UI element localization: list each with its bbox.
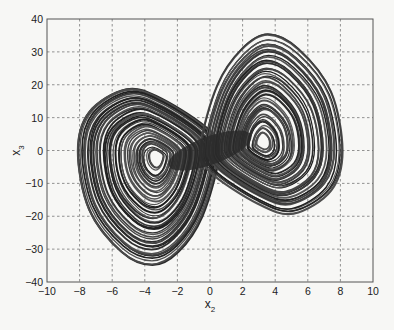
y-tick-label: 0 xyxy=(37,145,43,157)
y-tick-label: −40 xyxy=(25,276,43,288)
y-tick-label: −10 xyxy=(25,177,43,189)
x-tick-label: 6 xyxy=(305,285,311,297)
x-tick-label: −2 xyxy=(171,285,183,297)
y-tick-label: −20 xyxy=(25,210,43,222)
y-tick-label: −30 xyxy=(25,243,43,255)
x-axis-label-subscript: 2 xyxy=(211,305,216,314)
attractor-chart: −10−8−6−4−20246810 −40−30−20−10010203040… xyxy=(0,0,394,330)
y-axis-label-subscript: 3 xyxy=(17,145,26,150)
x-tick-label: 0 xyxy=(207,285,213,297)
y-axis-ticks: −40−30−20−10010203040 xyxy=(25,13,43,288)
x-axis-ticks: −10−8−6−4−20246810 xyxy=(38,285,379,297)
y-tick-label: 20 xyxy=(31,79,43,91)
y-tick-label: 40 xyxy=(31,13,43,25)
x-axis-label: x2 xyxy=(205,297,216,314)
y-tick-label: 10 xyxy=(31,112,43,124)
x-tick-label: −6 xyxy=(106,285,118,297)
x-tick-label: 2 xyxy=(240,285,246,297)
x-tick-label: 8 xyxy=(337,285,343,297)
y-axis-label: x3 xyxy=(9,145,26,156)
x-tick-label: 10 xyxy=(367,285,379,297)
x-tick-label: 4 xyxy=(272,285,278,297)
y-tick-label: 30 xyxy=(31,46,43,58)
x-tick-label: −4 xyxy=(139,285,151,297)
x-tick-label: −8 xyxy=(74,285,86,297)
